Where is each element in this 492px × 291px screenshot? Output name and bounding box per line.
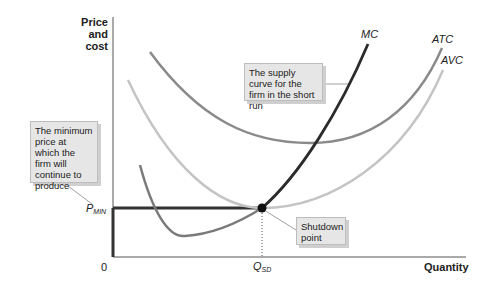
min-price-callout: The minimum price at which the firm will… (30, 121, 98, 183)
shutdown-leader (264, 210, 296, 230)
pmin-sub: MIN (93, 208, 106, 215)
atc-label: ATC (432, 33, 453, 45)
x-axis-label: Quantity (424, 261, 469, 273)
y-label-line1: Price (62, 16, 108, 28)
qsd-sub: SD (262, 266, 272, 273)
qsd-main: Q (253, 260, 262, 272)
shutdown-callout: Shutdown point (296, 217, 346, 245)
supply-callout: The supply curve for the firm in the sho… (244, 63, 323, 101)
y-label-line2: and (62, 28, 108, 40)
cost-curves-chart: Price and cost MC ATC AVC PMIN 0 QSD Qua… (0, 0, 492, 291)
origin-label: 0 (101, 261, 107, 273)
shutdown-point-marker (258, 204, 267, 213)
y-label-line3: cost (62, 40, 108, 52)
avc-label: AVC (441, 54, 463, 66)
mc-curve-lower (140, 165, 262, 236)
qsd-label: QSD (253, 260, 271, 273)
y-axis-label: Price and cost (62, 16, 108, 52)
mc-label: MC (361, 28, 378, 40)
pmin-label: PMIN (86, 202, 106, 215)
